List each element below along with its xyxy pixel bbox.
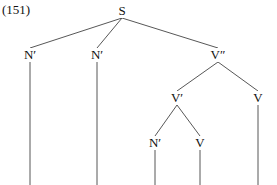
tree-node-n2: N′ [90, 48, 104, 62]
tree-node-vbar1: V′ [170, 91, 184, 105]
tree-branches [0, 0, 277, 185]
tree-node-vbar2: V″ [210, 48, 227, 62]
tree-node-n3: N′ [148, 136, 162, 150]
tree-node-n1: N′ [23, 48, 37, 62]
tree-node-s: S [117, 4, 126, 18]
tree-edge-s-to-vbar2 [122, 18, 218, 48]
tree-edge-vbar2-to-vbar1 [177, 62, 218, 91]
tree-node-v2: V [194, 136, 205, 150]
tree-edge-vbar2-to-v1 [218, 62, 258, 91]
tree-node-v1: V [252, 91, 263, 105]
edge-group [30, 18, 258, 136]
tree-edge-vbar1-to-v2 [177, 105, 200, 136]
tree-edge-s-to-n1 [30, 18, 122, 48]
tree-edge-vbar1-to-n3 [155, 105, 177, 136]
syntax-tree-figure: (151) SN′N′V″V′VN′V [0, 0, 277, 185]
terminal-stem-group [30, 62, 258, 185]
